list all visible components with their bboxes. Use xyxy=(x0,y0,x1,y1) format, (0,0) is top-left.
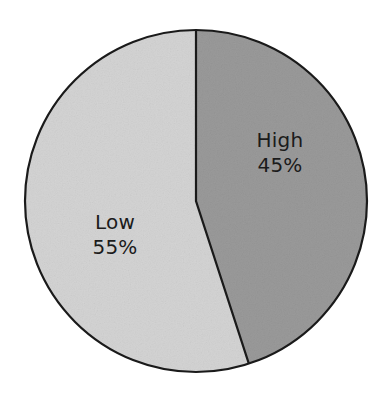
pie-chart-canvas xyxy=(0,0,392,401)
slice-label-low: Low 55% xyxy=(65,210,165,260)
slice-label-high: High 45% xyxy=(230,128,330,178)
slice-label-low-name: Low xyxy=(65,210,165,235)
slice-label-low-value: 55% xyxy=(65,235,165,260)
pie-chart-figure: High 45% Low 55% xyxy=(0,0,392,401)
slice-label-high-name: High xyxy=(230,128,330,153)
slice-label-high-value: 45% xyxy=(230,153,330,178)
